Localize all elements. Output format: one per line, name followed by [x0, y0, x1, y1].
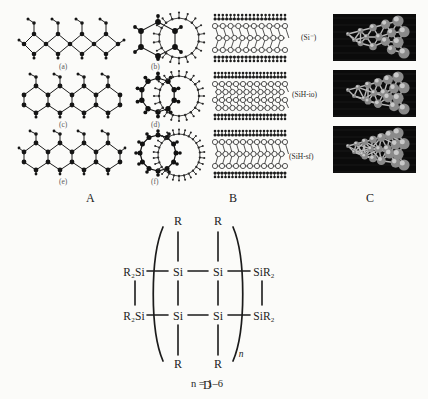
figure-root: (a) (b)	[0, 0, 428, 399]
panel-a-sublabel-c: (c)	[59, 120, 67, 129]
panel-b-slab-2	[212, 72, 288, 120]
panel-d-label-right-2: SiR₂	[253, 310, 274, 322]
panel-a-sheet-e	[18, 130, 128, 176]
panel-b-slab-1	[212, 14, 288, 62]
panel-a-sheet-c	[18, 72, 128, 118]
panel-letter-c: C	[366, 191, 374, 206]
panel-c-image-1	[333, 14, 416, 61]
panel-letter-a: A	[86, 191, 95, 206]
panel-d-label-r-bottom-2: R	[214, 357, 222, 371]
panel-d-label-si-3: Si	[173, 309, 184, 323]
panel-c-label-1: (Si⁻)	[301, 33, 316, 42]
panel-d-label-r-top-1: R	[174, 214, 182, 228]
panel-d-label-si-1: Si	[173, 265, 184, 279]
panel-d-repeat-symbol: n	[239, 349, 244, 359]
panel-letter-d: D	[203, 378, 212, 393]
panel-d-label-left-1: R₂Si	[123, 266, 144, 278]
panel-a-sheet-a	[18, 14, 128, 60]
panel-c-image-2	[333, 70, 416, 117]
panel-c-image-3	[333, 126, 416, 173]
panel-a-largering-2	[146, 68, 212, 122]
panel-a-largering-1	[146, 10, 212, 64]
panel-d-label-right-1: SiR₂	[253, 266, 274, 278]
panel-d-label-si-2: Si	[213, 265, 224, 279]
panel-a-sublabel-e: (e)	[59, 177, 67, 186]
panel-letter-b: B	[229, 191, 237, 206]
panel-d-structure: R R R R Si Si Si Si R₂Si R₂Si SiR₂ SiR₂ …	[0, 205, 428, 399]
panel-d-label-r-bottom-1: R	[174, 357, 182, 371]
panel-d-label-r-top-2: R	[214, 214, 222, 228]
panel-a-sublabel-a: (a)	[59, 62, 67, 71]
panel-a-largering-3	[144, 126, 214, 182]
panel-c-label-2: (SiH-io)	[292, 90, 317, 99]
panel-b-slab-3	[212, 130, 288, 178]
panel-d-label-si-4: Si	[213, 309, 224, 323]
panel-d-label-left-2: R₂Si	[123, 310, 144, 322]
panel-c-label-3: (SiH-sf)	[289, 152, 314, 161]
